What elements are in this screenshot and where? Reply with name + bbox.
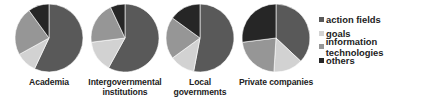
pie-slice-others [242, 4, 276, 42]
pie-label-intergovernmental: Intergovernmental institutions [87, 77, 163, 97]
pie-chart-intergovernmental: Intergovernmental institutions [87, 3, 163, 97]
pie-chart-private-companies: Private companies [238, 3, 314, 87]
pie-local-governments [165, 3, 235, 73]
pie-label-line1: Intergovernmental [87, 77, 163, 87]
legend-label: others [326, 55, 355, 66]
legend-item-action-fields: action fields [319, 13, 431, 27]
pie-label-private-companies: Private companies [238, 77, 314, 87]
pie-private-companies [241, 3, 311, 73]
legend-swatch-icon [319, 58, 324, 63]
pie-label-academia: Academia [11, 77, 87, 87]
legend-label: action fields [326, 14, 381, 25]
legend: action fields goals information technolo… [319, 13, 431, 67]
legend-swatch-icon [319, 17, 324, 22]
pie-chart-academia: Academia [11, 3, 87, 87]
pie-chart-local-governments: Local governments [162, 3, 238, 97]
pie-label-local-governments: Local governments [162, 77, 238, 97]
legend-swatch-icon [319, 31, 324, 36]
legend-swatch-icon [319, 44, 324, 49]
pie-intergovernmental [90, 3, 160, 73]
legend-item-information-technologies: information technologies [319, 40, 431, 54]
pie-academia [14, 3, 84, 73]
pie-slice-information-technologies [242, 38, 276, 72]
pie-label-line2: institutions [87, 87, 163, 97]
